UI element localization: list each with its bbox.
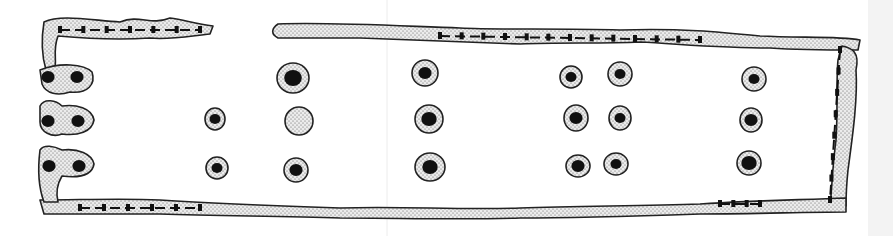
post-mould <box>741 156 756 170</box>
longhouse-site-plan <box>0 0 893 236</box>
post-mould <box>566 72 577 82</box>
stake-hole-icon <box>546 34 550 41</box>
stake-hole-icon <box>128 26 132 33</box>
post-hole <box>41 71 54 83</box>
post-mould <box>289 164 302 176</box>
post-mould <box>611 159 622 169</box>
stake-hole-icon <box>834 110 838 117</box>
post-mould <box>615 113 626 123</box>
post-mould <box>71 115 84 127</box>
post-hole <box>737 151 761 175</box>
stake-hole-icon <box>837 67 841 74</box>
post-hole <box>205 108 225 130</box>
post-hole <box>740 108 762 132</box>
post-mould <box>421 112 436 126</box>
post-hole <box>41 115 54 127</box>
post-hole <box>42 160 55 172</box>
stake-hole-icon <box>655 35 659 42</box>
post-hole <box>609 106 631 130</box>
post-hole <box>415 105 443 133</box>
stake-hole-icon <box>745 200 749 207</box>
post-mould <box>284 70 302 86</box>
post-hole <box>608 62 632 86</box>
stake-hole-icon <box>78 204 82 211</box>
stake-hole-icon <box>832 132 836 139</box>
post-mould <box>72 160 85 172</box>
stake-hole-icon <box>81 26 85 33</box>
stake-hole-icon <box>835 89 839 96</box>
stake-hole-icon <box>105 26 109 33</box>
post-hole <box>71 115 84 127</box>
post-mould <box>749 74 760 84</box>
stake-hole-icon <box>150 204 154 211</box>
stake-hole-icon <box>58 26 62 33</box>
post-hole <box>412 60 438 86</box>
stake-hole-icon <box>718 200 722 207</box>
post-hole <box>284 158 308 182</box>
stake-hole-icon <box>698 36 702 43</box>
stake-hole-icon <box>838 46 842 53</box>
stake-hole-icon <box>460 32 464 39</box>
post-hole <box>206 157 228 179</box>
post-mould <box>42 160 55 172</box>
post-mould <box>569 112 582 124</box>
stake-hole-icon <box>503 33 507 40</box>
stake-hole-icon <box>102 204 106 211</box>
post-mould <box>212 163 223 173</box>
post-hole <box>72 160 85 172</box>
post-hole <box>566 155 590 177</box>
post-hole <box>70 71 83 83</box>
post-hole <box>415 153 445 181</box>
stake-hole-icon <box>829 175 833 182</box>
stake-hole-icon <box>198 26 202 33</box>
stake-hole-icon <box>525 33 529 40</box>
post-mould <box>210 114 221 124</box>
stake-hole-icon <box>568 34 572 41</box>
stake-hole-icon <box>831 153 835 160</box>
stake-hole-icon <box>731 200 735 207</box>
stake-hole-icon <box>174 204 178 211</box>
stake-hole-icon <box>633 35 637 42</box>
post-hole <box>564 105 588 131</box>
stake-hole-icon <box>481 33 485 40</box>
post-mould <box>744 114 757 126</box>
post-hole <box>560 66 582 88</box>
post-mould <box>571 160 584 172</box>
page-edge-shade <box>868 0 893 236</box>
post-mould <box>418 67 431 79</box>
post-mould <box>615 69 626 79</box>
post-mould <box>70 71 83 83</box>
stake-hole-icon <box>758 200 762 207</box>
stake-hole-icon <box>438 32 442 39</box>
stake-hole-icon <box>151 26 155 33</box>
stake-hole-icon <box>828 196 832 203</box>
post-mould <box>41 115 54 127</box>
post-hole <box>742 67 766 91</box>
post-hole <box>285 107 313 135</box>
post-pit <box>285 107 313 135</box>
post-mould <box>422 160 437 174</box>
post-hole <box>277 63 309 93</box>
stake-hole-icon <box>175 26 179 33</box>
stake-hole-icon <box>590 34 594 41</box>
stake-hole-icon <box>676 36 680 43</box>
post-hole <box>604 153 628 175</box>
post-mould <box>41 71 54 83</box>
stake-hole-icon <box>198 204 202 211</box>
stake-hole-icon <box>126 204 130 211</box>
stake-hole-icon <box>611 35 615 42</box>
